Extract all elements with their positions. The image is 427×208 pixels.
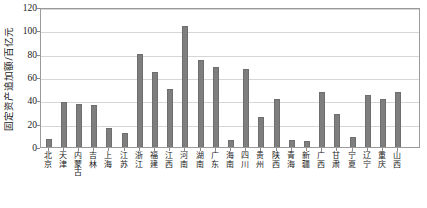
bar	[137, 54, 143, 147]
y-axis-tickmark	[37, 148, 40, 149]
bar	[182, 26, 188, 147]
bar	[274, 99, 280, 147]
bar	[213, 67, 219, 148]
x-axis-category-label: 宁夏	[346, 152, 357, 169]
x-axis-category-label: 内蒙古	[73, 152, 84, 178]
x-axis-category-label: 四川	[240, 152, 251, 169]
y-axis-tick-label: 80	[28, 50, 38, 60]
bar	[365, 95, 371, 148]
x-axis-category-label: 天津	[57, 152, 68, 169]
x-axis-category-label: 山西	[392, 152, 403, 169]
y-axis-tickmark	[37, 55, 40, 56]
x-axis-category-label: 吉林	[88, 152, 99, 169]
y-axis-tick-label: 120	[23, 3, 37, 13]
x-axis-category-label: 福建	[149, 152, 160, 169]
bar	[334, 114, 340, 147]
x-axis-category-label: 海南	[225, 152, 236, 169]
bar	[106, 128, 112, 147]
bar	[152, 72, 158, 147]
bar	[76, 104, 82, 147]
y-axis-tickmark	[37, 31, 40, 32]
x-axis-category-label: 广西	[316, 152, 327, 169]
y-axis-tick-label: 100	[23, 26, 37, 36]
bar	[289, 140, 295, 147]
x-axis-category-label: 上海	[103, 152, 114, 169]
y-axis-tick-label: 40	[28, 96, 38, 106]
bar-chart: 固定资产追加额/百亿元 120100806040200 北京天津内蒙古吉林上海江…	[0, 0, 427, 208]
bar	[243, 69, 249, 147]
bar	[258, 117, 264, 147]
bar	[91, 105, 97, 147]
x-axis-category-label: 青海	[285, 152, 296, 169]
x-axis-category-label: 重庆	[377, 152, 388, 169]
bar	[167, 89, 173, 147]
x-axis-category-label: 江西	[164, 152, 175, 169]
x-axis-category-label: 新疆	[301, 152, 312, 169]
x-axis-category-label: 甘肃	[331, 152, 342, 169]
bar	[319, 92, 325, 147]
bar	[122, 133, 128, 147]
x-axis-category-label: 江苏	[118, 152, 129, 169]
y-axis-tickmark	[37, 125, 40, 126]
bar	[350, 137, 356, 148]
y-axis-tick-label: 60	[28, 73, 38, 83]
y-axis-tickmark	[37, 8, 40, 9]
plot-area	[40, 8, 420, 148]
bar	[380, 99, 386, 147]
y-axis-tick-labels: 120100806040200	[13, 8, 37, 148]
x-axis-category-label: 河南	[179, 152, 190, 169]
x-axis-category-label: 北京	[42, 152, 53, 169]
bar	[228, 140, 234, 147]
x-axis-category-label: 辽宁	[361, 152, 372, 169]
bar	[395, 92, 401, 147]
y-axis-tickmark	[37, 101, 40, 102]
x-axis-category-labels: 北京天津内蒙古吉林上海江苏浙江福建江西河南湖南广东海南四川贵州陕西青海新疆广西甘…	[40, 152, 420, 208]
y-axis-tickmark	[37, 78, 40, 79]
bar	[46, 139, 52, 147]
x-axis-category-label: 贵州	[255, 152, 266, 169]
bars-layer	[41, 9, 419, 147]
x-axis-category-label: 湖南	[194, 152, 205, 169]
bar	[198, 60, 204, 148]
bar	[304, 141, 310, 147]
y-axis-tick-label: 20	[28, 120, 38, 130]
x-axis-category-label: 陕西	[270, 152, 281, 169]
x-axis-category-label: 广东	[209, 152, 220, 169]
x-axis-category-label: 浙江	[133, 152, 144, 169]
bar	[61, 102, 67, 148]
